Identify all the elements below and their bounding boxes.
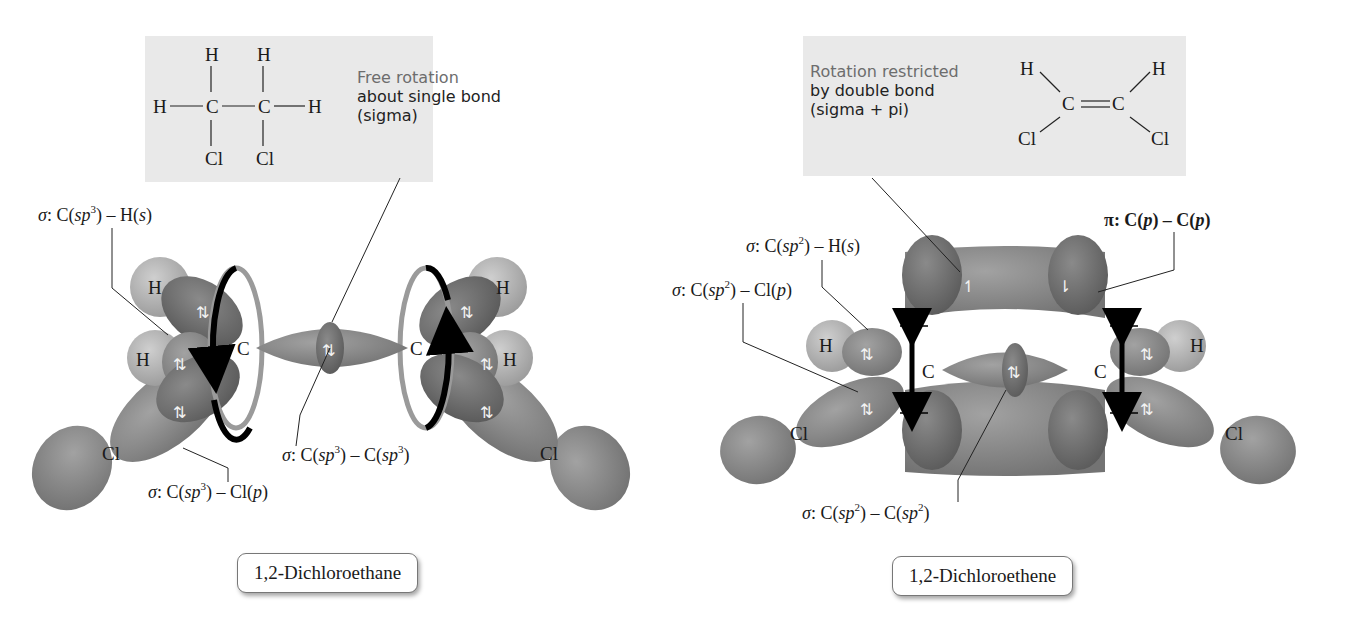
ethane-orbitals (16, 257, 647, 526)
orbital-illustration: ⇅ ⇅ ⇅ ⇅ ⇅ ⇅ ⇅ H H C C Cl Cl H H (0, 0, 1347, 638)
svg-text:⇅: ⇅ (173, 355, 186, 374)
svg-text:H: H (148, 277, 162, 298)
svg-text:H: H (819, 335, 833, 356)
ethane-bond-lines (170, 66, 305, 146)
svg-text:Cl: Cl (540, 443, 558, 464)
svg-text:⇅: ⇅ (1007, 363, 1020, 382)
pi-spin-up: ↿ (962, 277, 975, 296)
pi-spin-down: ⇂ (1058, 277, 1071, 296)
svg-text:H: H (1190, 335, 1204, 356)
svg-text:⇅: ⇅ (860, 400, 873, 419)
svg-text:C: C (410, 338, 423, 359)
svg-text:C: C (237, 338, 250, 359)
svg-text:⇅: ⇅ (196, 303, 209, 322)
svg-text:⇅: ⇅ (860, 345, 873, 364)
svg-text:⇅: ⇅ (460, 303, 473, 322)
svg-text:⇅: ⇅ (173, 403, 186, 422)
ethene-bond-lines (1040, 72, 1150, 132)
svg-text:⇅: ⇅ (480, 403, 493, 422)
svg-text:H: H (503, 349, 517, 370)
svg-text:⇅: ⇅ (480, 355, 493, 374)
svg-text:H: H (496, 277, 510, 298)
svg-text:Cl: Cl (1225, 423, 1243, 444)
svg-text:⇅: ⇅ (1140, 345, 1153, 364)
svg-text:H: H (136, 349, 150, 370)
svg-text:Cl: Cl (102, 443, 120, 464)
svg-text:C: C (1094, 361, 1107, 382)
svg-text:⇅: ⇅ (1140, 400, 1153, 419)
svg-text:Cl: Cl (790, 423, 808, 444)
svg-text:C: C (922, 361, 935, 382)
